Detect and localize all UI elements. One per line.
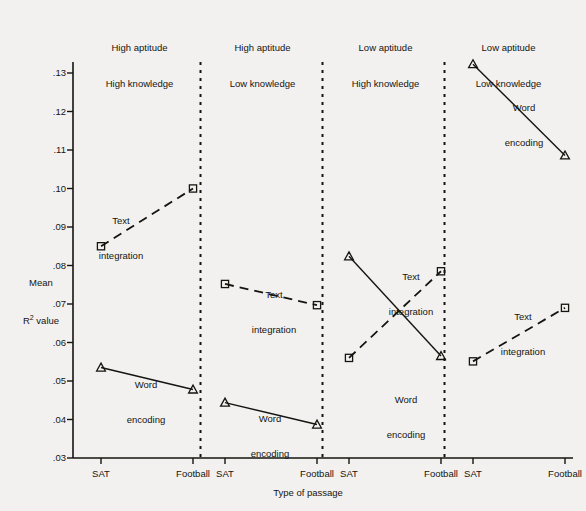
- series-label-line2: encoding: [370, 429, 442, 441]
- series-label-line2: integration: [487, 346, 559, 358]
- x-tick-label: SAT: [67, 468, 135, 480]
- series-label-line1: Text: [238, 289, 310, 301]
- y-axis-title-line1: Mean: [12, 277, 70, 289]
- y-tick-label: .05: [30, 375, 66, 387]
- series-label-p3-word-encoding: Word encoding: [370, 371, 442, 463]
- series-label-p4-text-integration: Text integration: [487, 288, 559, 380]
- data-point-triangle: [97, 363, 106, 371]
- series-label-line2: encoding: [234, 448, 306, 460]
- data-point-triangle: [345, 252, 354, 260]
- series-label-p4-word-encoding: Word encoding: [488, 79, 560, 171]
- series-label-p2-word-encoding: Word encoding: [234, 390, 306, 482]
- y-tick-label: .12: [30, 106, 66, 118]
- series-label-line1: Word: [488, 102, 560, 114]
- series-label-line1: Word: [110, 379, 182, 391]
- y-tick-label: .13: [30, 67, 66, 79]
- data-point-triangle: [469, 60, 478, 68]
- y-tick-label: .04: [30, 414, 66, 426]
- data-point-triangle: [221, 398, 230, 406]
- y-tick-label: .11: [30, 144, 66, 156]
- series-label-line1: Word: [234, 413, 306, 425]
- series-label-p1-word-encoding: Word encoding: [110, 356, 182, 448]
- y-axis-title: Mean R2 value: [12, 254, 70, 349]
- series-label-p2-text-integration: Text integration: [238, 266, 310, 358]
- x-axis-title: Type of passage: [243, 487, 373, 499]
- x-tick-marks: [101, 458, 565, 464]
- y-tick-label: .03: [30, 452, 66, 464]
- series-label-line2: integration: [238, 324, 310, 336]
- y-tick-label: .09: [30, 221, 66, 233]
- y-tick-label: .10: [30, 183, 66, 195]
- series-label-line1: Text: [487, 311, 559, 323]
- x-tick-label: SAT: [315, 468, 383, 480]
- x-tick-label: Football: [531, 468, 586, 480]
- y-axis-title-line2: R2 value: [12, 312, 70, 327]
- series-label-p1-text-integration: Text integration: [85, 192, 157, 284]
- data-point-square: [469, 358, 476, 365]
- series-label-line1: Word: [370, 394, 442, 406]
- series-label-line2: encoding: [110, 414, 182, 426]
- series-label-line2: integration: [85, 250, 157, 262]
- series-label-line1: Text: [85, 215, 157, 227]
- series-label-p3-text-integration: Text integration: [375, 248, 447, 340]
- series-label-line2: encoding: [488, 137, 560, 149]
- series-label-line1: Text: [375, 271, 447, 283]
- x-tick-label: SAT: [439, 468, 507, 480]
- series-label-line2: integration: [375, 306, 447, 318]
